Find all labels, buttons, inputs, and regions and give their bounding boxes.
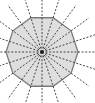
decagon-symmetry-diagram <box>0 0 95 103</box>
center-point <box>40 50 43 53</box>
